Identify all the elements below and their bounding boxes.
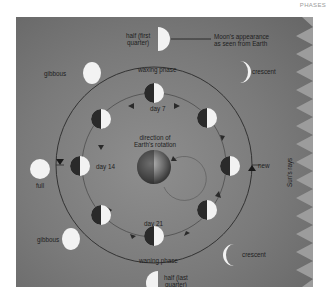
legend-label: Moon's appearance as seen from Earth (214, 33, 269, 47)
outer-arrow-new (248, 165, 256, 171)
label-waxing-gibbous: gibbous (44, 70, 66, 77)
label-earth-rotation-line1: direction of (132, 134, 178, 141)
label-new: new (258, 162, 270, 169)
earth (137, 150, 206, 200)
label-waning-gibbous: gibbous (37, 236, 59, 243)
diagram-canvas (16, 17, 313, 287)
label-waning-phase: waning phase (139, 257, 178, 264)
moon-phases-diagram: Moon's appearance as seen from Earth hal… (16, 17, 313, 287)
label-day-7: day 7 (150, 105, 165, 112)
label-last-quarter-line2: quarter) (164, 281, 188, 287)
moon-waning-gibbous (62, 228, 80, 250)
page-header-label: PHASES (300, 2, 326, 8)
label-last-quarter-line1: half (last (164, 274, 188, 281)
legend-line-1: Moon's appearance (214, 33, 269, 40)
label-first-quarter-line2: quarter) (126, 39, 150, 46)
label-earth-rotation: direction of Earth's rotation (132, 134, 178, 148)
moon-first-quarter (158, 27, 170, 51)
moon-full (30, 159, 50, 179)
sun-rays (296, 17, 313, 287)
label-waxing-crescent: crescent (252, 68, 276, 75)
label-first-quarter-line1: half (first (126, 32, 150, 39)
legend-line-2: as seen from Earth (214, 40, 269, 47)
label-sun-rays: Sun's rays (286, 158, 293, 187)
label-earth-rotation-line2: Earth's rotation (132, 141, 178, 148)
outer-arrow-full (56, 159, 64, 165)
moon-last-quarter (146, 271, 158, 287)
label-day-21: day 21 (144, 220, 163, 227)
moon-waxing-gibbous (83, 62, 101, 84)
label-full: full (36, 182, 44, 189)
moon-waxing-crescent (240, 61, 251, 83)
label-waxing-phase: waxing phase (138, 66, 177, 73)
rotation-arrow-icon (171, 156, 177, 161)
label-day-14: day 14 (96, 163, 115, 170)
label-last-quarter: half (last quarter) (164, 274, 188, 287)
label-waning-crescent: crescent (242, 251, 266, 258)
label-first-quarter: half (first quarter) (126, 32, 150, 46)
moon-waning-crescent (223, 244, 234, 266)
